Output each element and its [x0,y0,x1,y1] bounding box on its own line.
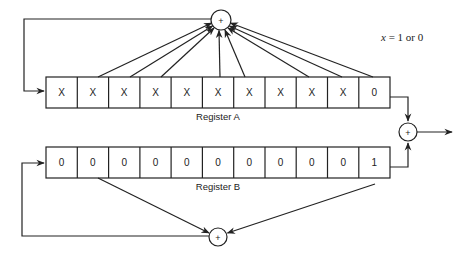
register-a-cell: X [90,87,97,98]
register-a-cell: 0 [372,87,378,98]
legend-text: = 1 or 0 [386,31,424,43]
xor-top-symbol: + [218,16,223,26]
register-b-cell: 0 [153,157,159,168]
xor-top-node: + [211,10,231,30]
register-b-cell: 0 [340,157,346,168]
register-b-cell: 0 [59,157,65,168]
xor-bottom-node: + [209,228,227,246]
register-b-label: Register B [196,181,240,192]
legend: x = 1 or 0 [380,31,424,43]
register-b-cell: 0 [90,157,96,168]
register-b-output-wire [390,143,408,167]
register-a-cell: X [152,87,159,98]
register-a-output-wire [390,97,408,121]
register-a-cell: X [340,87,347,98]
xor-output-node: + [399,123,417,141]
register-a-taps [98,23,373,77]
register-b: 0 0 0 0 0 0 0 0 0 0 1 [46,147,390,178]
register-a-cell: X [58,87,65,98]
lfsr-diagram: x = 1 or 0 X X X X X X X X X X 0 Registe… [0,0,474,257]
register-b-cell: 0 [215,157,221,168]
xor-bottom-symbol: + [215,233,220,243]
register-a-cell: X [246,87,253,98]
register-a-cell: X [309,87,316,98]
xor-output-symbol: + [405,128,410,138]
register-b-cell: 0 [121,157,127,168]
register-a-cell: X [121,87,128,98]
register-a: X X X X X X X X X X 0 [46,77,390,108]
register-b-cell: 0 [278,157,284,168]
register-b-cell: 0 [247,157,253,168]
register-a-cell: X [277,87,284,98]
register-b-cell: 0 [309,157,315,168]
register-a-label: Register A [196,111,240,122]
register-b-cell: 1 [372,157,378,168]
register-a-cell: X [215,87,222,98]
register-b-cell: 0 [184,157,190,168]
register-a-cell: X [183,87,190,98]
